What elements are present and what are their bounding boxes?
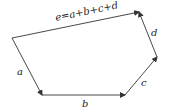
label-a: a — [17, 66, 23, 77]
label-b: b — [82, 98, 88, 109]
label-c: c — [141, 77, 147, 88]
label-e: e=a+b+c+d — [54, 0, 119, 23]
label-d: d — [151, 27, 157, 38]
vector-c-arrow — [125, 57, 157, 95]
vector-sum-diagram: a b c d e=a+b+c+d — [0, 0, 171, 112]
